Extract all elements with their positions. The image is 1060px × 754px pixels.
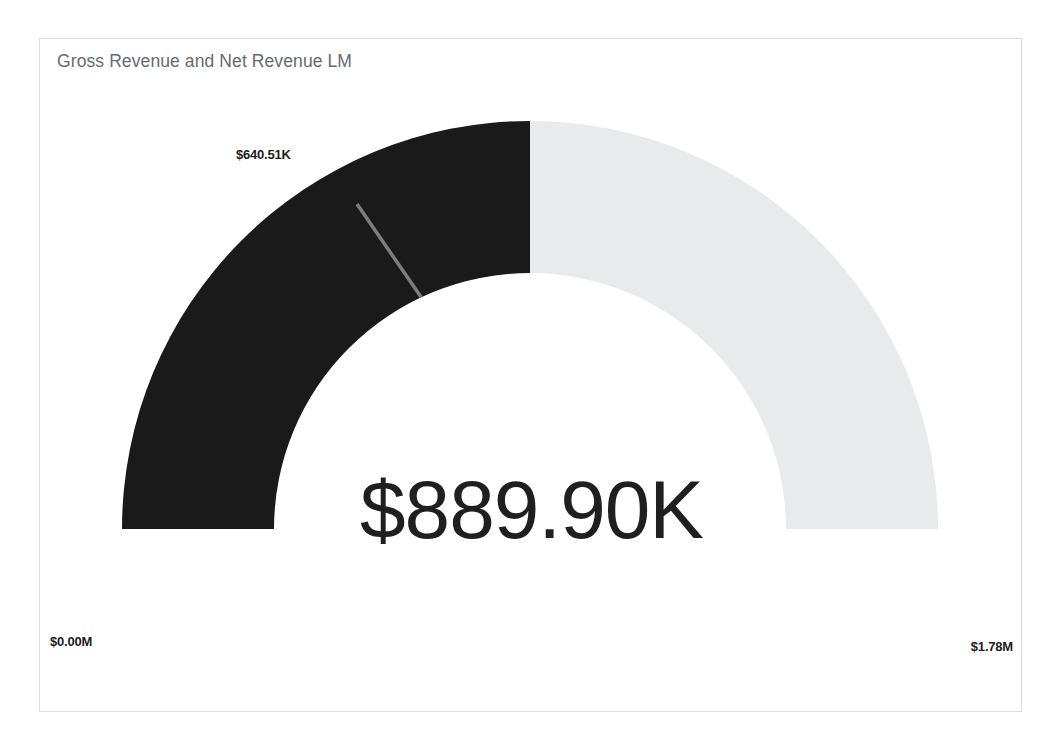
gauge-value-text: $889.90K — [40, 469, 1023, 551]
gauge-target-label: $640.51K — [236, 147, 291, 162]
gauge-max-axis-label: $1.78M — [971, 639, 1013, 654]
gauge-card[interactable]: Gross Revenue and Net Revenue LM $640.51… — [39, 38, 1022, 712]
gauge-visual: $640.51K $889.90K $0.00M $1.78M — [40, 39, 1023, 713]
gauge-min-axis-label: $0.00M — [50, 634, 92, 649]
gauge-arc-graphic — [40, 39, 1023, 713]
